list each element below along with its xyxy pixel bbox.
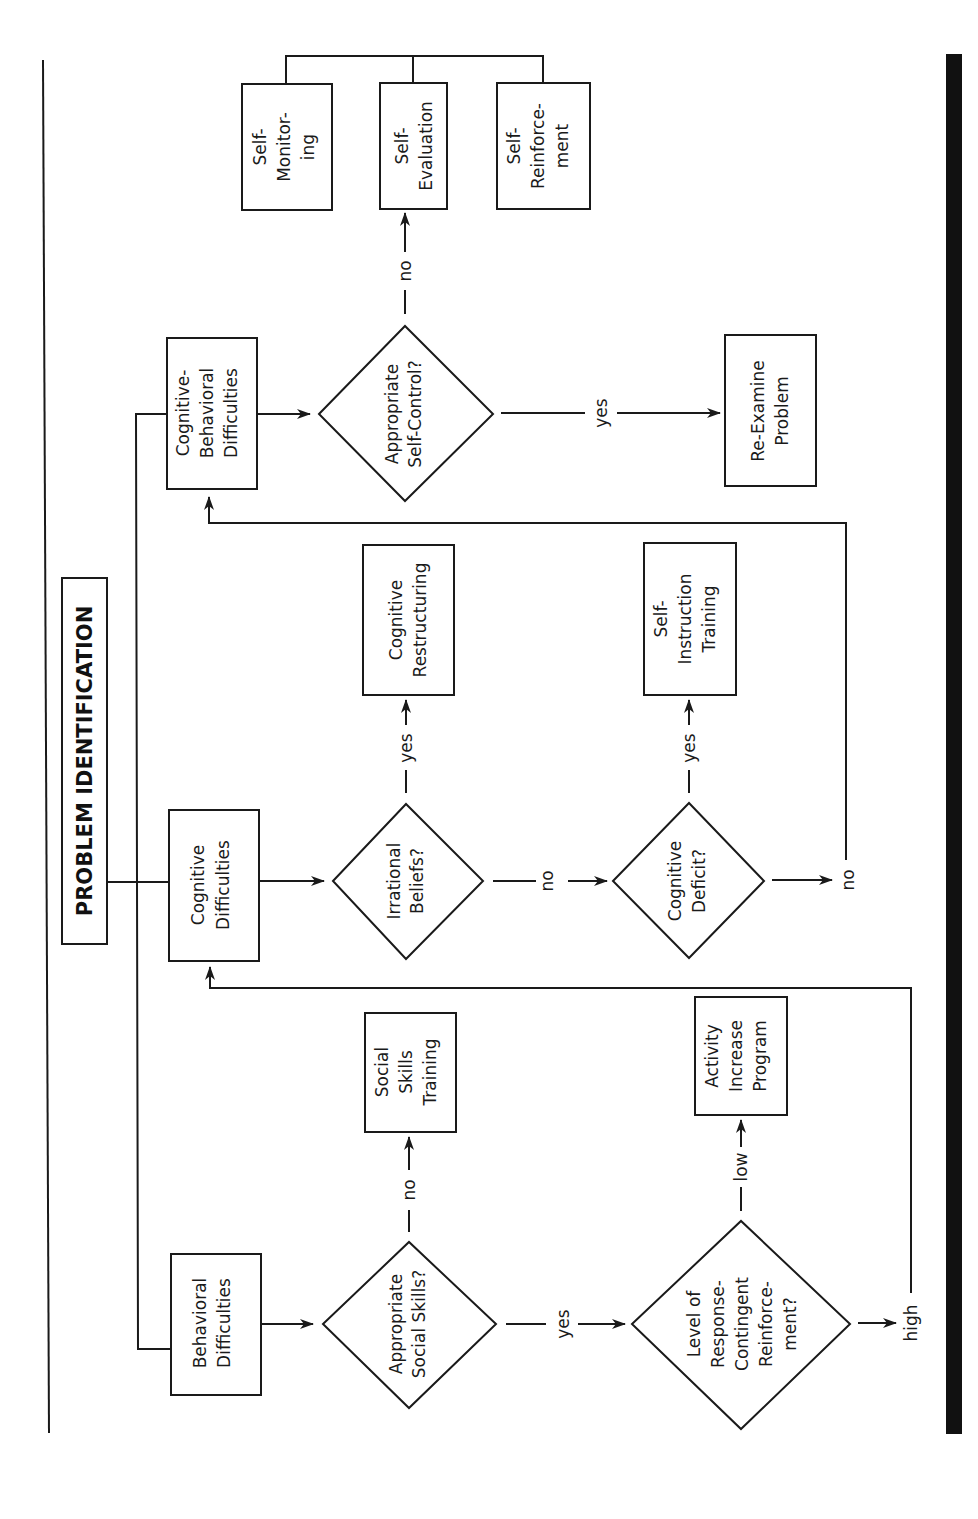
decision-label-line: ment? <box>780 1297 800 1350</box>
category-cognitive-behavioral: Cognitive- Behavioral Difficulties <box>167 338 257 489</box>
decision-label-line: Self-Control? <box>405 360 425 468</box>
edge-label-yes: yes <box>679 733 699 763</box>
category-label-line: Difficulties <box>214 1278 234 1368</box>
intervention-label-line: Re-Examine <box>748 360 768 461</box>
decision-irrational-beliefs: Irrational Beliefs? <box>333 804 483 959</box>
decision-label-line: Cognitive <box>665 841 685 921</box>
intervention-label-line: Evaluation <box>416 101 436 191</box>
intervention-self-instruction-training: Self- Instruction Training <box>644 543 736 695</box>
intervention-self-evaluation: Self- Evaluation <box>380 83 447 209</box>
decision-label-line: Reinforce- <box>756 1281 776 1367</box>
intervention-label-line: Restructuring <box>410 563 430 678</box>
intervention-label-line: Self- <box>651 600 671 637</box>
category-label-line: Behavioral <box>190 1278 210 1369</box>
decision-label-line: Irrational <box>384 843 404 920</box>
intervention-label-line: ment <box>552 123 572 168</box>
category-label-line: Cognitive <box>188 845 208 925</box>
intervention-label-line: Problem <box>772 376 792 446</box>
intervention-label-line: Training <box>420 1038 440 1106</box>
edge-label-no: no <box>395 260 415 281</box>
category-cognitive: Cognitive Difficulties <box>169 810 259 961</box>
edge-label-yes: yes <box>591 398 611 428</box>
decision-label-line: Appropriate <box>386 1274 406 1374</box>
decision-label-line: Contingent <box>732 1277 752 1371</box>
edge-reinf-high-loop-to-cognitive <box>210 967 911 1293</box>
category-label-line: Behavioral <box>197 368 217 459</box>
edge-label-no: no <box>399 1179 419 1200</box>
page-edge-bar <box>946 54 962 1434</box>
decision-label-line: Deficit? <box>689 849 709 913</box>
intervention-label-line: Increase <box>726 1020 746 1092</box>
edge-label-low: low <box>731 1152 751 1181</box>
decision-label-line: Beliefs? <box>407 848 427 914</box>
intervention-label-line: Cognitive <box>386 580 406 660</box>
decision-reinforcement: Level of Response- Contingent Reinforce-… <box>632 1221 850 1429</box>
intervention-activity-increase-program: Activity Increase Program <box>695 997 787 1115</box>
intervention-self-reinforcement: Self- Reinforce- ment <box>497 83 590 209</box>
flowchart-canvas: PROBLEM IDENTIFICATION Cognitive- Behavi… <box>0 0 978 1519</box>
intervention-cognitive-restructuring: Cognitive Restructuring <box>363 545 454 695</box>
intervention-label-line: ing <box>298 134 318 160</box>
decision-label-line: Social Skills? <box>409 1270 429 1379</box>
category-label-line: Difficulties <box>221 368 241 458</box>
intervention-label-line: Monitor- <box>274 112 294 182</box>
edge-label-yes: yes <box>553 1309 573 1339</box>
intervention-label-line: Program <box>750 1020 770 1092</box>
intervention-re-examine-problem: Re-Examine Problem <box>725 335 816 486</box>
category-label-line: Difficulties <box>213 840 233 930</box>
edge-label-no: no <box>537 870 557 891</box>
decision-self-control: Appropriate Self-Control? <box>319 326 493 501</box>
intervention-label-line: Activity <box>702 1024 722 1088</box>
intervention-social-skills-training: Social Skills Training <box>365 1013 456 1132</box>
decision-cognitive-deficit: Cognitive Deficit? <box>613 803 764 958</box>
intervention-self-monitoring: Self- Monitor- ing <box>242 84 332 210</box>
intervention-label-line: Instruction <box>675 574 695 665</box>
category-behavioral: Behavioral Difficulties <box>171 1254 261 1395</box>
decision-label-line: Appropriate <box>382 364 402 464</box>
intervention-label-line: Training <box>699 585 719 653</box>
decision-social-skills: Appropriate Social Skills? <box>323 1242 496 1408</box>
category-label-line: Cognitive- <box>173 370 193 457</box>
page-title: PROBLEM IDENTIFICATION <box>73 606 97 916</box>
intervention-label-line: Social <box>372 1047 392 1097</box>
intervention-label-line: Self- <box>392 127 412 164</box>
connector-self-management-group <box>286 56 543 84</box>
intervention-label-line: Reinforce- <box>528 103 548 189</box>
intervention-label-line: Skills <box>396 1050 416 1094</box>
page-rule-line <box>43 60 49 1433</box>
intervention-label-line: Self- <box>504 127 524 164</box>
decision-label-line: Response- <box>708 1280 728 1368</box>
edge-label-yes: yes <box>396 733 416 763</box>
edge-deficit-no-loop-to-cogbeh <box>209 497 846 860</box>
intervention-label-line: Self- <box>250 128 270 165</box>
edge-label-no: no <box>838 869 858 890</box>
decision-label-line: Level of <box>684 1290 704 1358</box>
edge-label-high: high <box>901 1304 921 1341</box>
